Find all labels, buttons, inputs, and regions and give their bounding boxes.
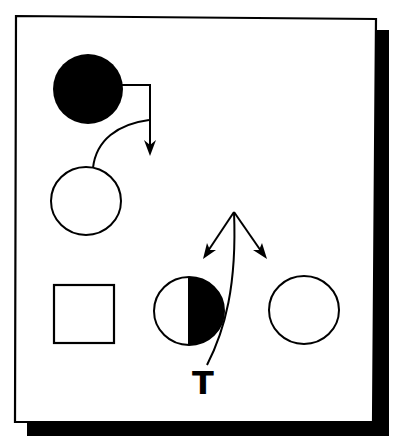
affected-female-symbol (53, 54, 123, 124)
unaffected-female-symbol (51, 167, 121, 235)
t-label: T (189, 366, 217, 400)
unaffected-female-symbol-right (269, 276, 339, 344)
unaffected-male-symbol (54, 285, 114, 343)
